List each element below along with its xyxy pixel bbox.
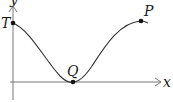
point-q-label: Q	[67, 63, 79, 79]
point-q	[71, 80, 76, 85]
point-p	[139, 19, 144, 24]
y-axis-label: y	[9, 0, 19, 7]
point-t	[11, 21, 16, 26]
point-t-label: T	[1, 15, 12, 31]
function-curve	[13, 21, 148, 82]
point-p-label: P	[143, 3, 154, 19]
graph-canvas: y x T Q P	[0, 0, 173, 102]
x-axis-label: x	[163, 74, 171, 90]
